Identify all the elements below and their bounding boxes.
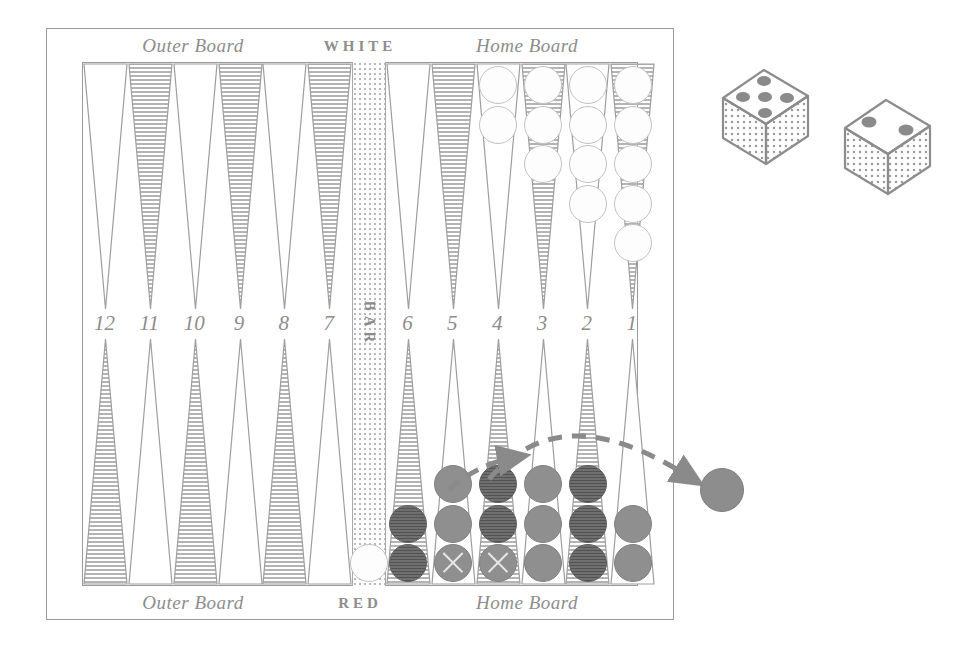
checker-red-point-2[interactable] xyxy=(569,505,607,543)
checker-red-point-2[interactable] xyxy=(569,465,607,503)
checker-white-point-2[interactable] xyxy=(569,185,607,223)
checker-on-bar[interactable] xyxy=(350,544,388,582)
checker-red-point-3[interactable] xyxy=(524,465,562,503)
checker-red-point-6[interactable] xyxy=(389,505,427,543)
checker-white-point-1[interactable] xyxy=(614,224,652,262)
checker-red-point-6[interactable] xyxy=(389,544,427,582)
borne-off-checker[interactable] xyxy=(700,468,744,512)
checker-white-point-1[interactable] xyxy=(614,185,652,223)
die-left[interactable] xyxy=(718,66,814,170)
die-right[interactable] xyxy=(840,96,936,200)
bottom-label-row: Outer Board RED Home Board xyxy=(82,590,638,616)
checker-white-point-2[interactable] xyxy=(569,145,607,183)
checker-red-point-1[interactable] xyxy=(614,544,652,582)
checker-white-point-1[interactable] xyxy=(614,145,652,183)
checker-red-point-3[interactable] xyxy=(524,505,562,543)
checker-red-point-5[interactable] xyxy=(434,544,472,582)
checker-white-point-3[interactable] xyxy=(524,106,562,144)
bottom-player-label: RED xyxy=(304,595,416,612)
bottom-outer-board-label: Outer Board xyxy=(82,592,304,614)
checker-red-point-1[interactable] xyxy=(614,505,652,543)
bottom-home-board-label: Home Board xyxy=(416,592,638,614)
backgammon-diagram: Outer Board WHITE Home Board BAR 1211109… xyxy=(0,0,954,652)
checker-white-point-4[interactable] xyxy=(479,66,517,104)
checker-white-point-3[interactable] xyxy=(524,66,562,104)
checker-red-point-4[interactable] xyxy=(479,465,517,503)
checker-red-point-4[interactable] xyxy=(479,544,517,582)
checker-white-point-1[interactable] xyxy=(614,106,652,144)
checker-white-point-2[interactable] xyxy=(569,66,607,104)
checker-red-point-2[interactable] xyxy=(569,544,607,582)
checker-white-point-3[interactable] xyxy=(524,145,562,183)
checker-red-point-3[interactable] xyxy=(524,544,562,582)
checker-white-point-4[interactable] xyxy=(479,106,517,144)
checker-red-point-5[interactable] xyxy=(434,505,472,543)
checker-white-point-1[interactable] xyxy=(614,66,652,104)
checker-red-point-4[interactable] xyxy=(479,505,517,543)
checker-white-point-2[interactable] xyxy=(569,106,607,144)
checker-red-point-5[interactable] xyxy=(434,465,472,503)
